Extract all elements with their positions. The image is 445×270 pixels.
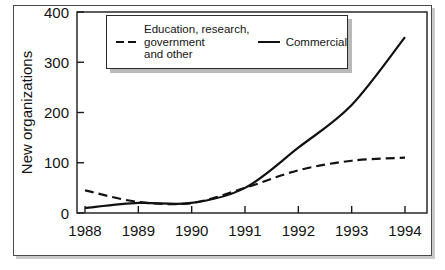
y-axis-tick-label: 100 — [44, 154, 69, 171]
x-axis-tick-label: 1992 — [282, 222, 315, 239]
y-axis-tick-label: 400 — [44, 4, 69, 21]
y-axis-tick-label: 200 — [44, 104, 69, 121]
x-axis-tick-label: 1991 — [228, 222, 261, 239]
figure-container: 0100200300400198819891990199119921993199… — [0, 0, 445, 270]
x-axis-tick-label: 1990 — [175, 222, 208, 239]
legend-label-commercial: Commercial — [286, 36, 347, 49]
legend-item-education[interactable]: Education, research, government and othe… — [107, 23, 256, 61]
chart-legend: Education, research, government and othe… — [106, 15, 348, 69]
dashed-line-swatch — [116, 37, 138, 47]
y-axis-tick-label: 0 — [61, 205, 69, 222]
y-axis-title: New organizations — [18, 51, 35, 174]
x-axis-tick-label: 1988 — [68, 222, 101, 239]
x-axis-tick-label: 1989 — [122, 222, 155, 239]
legend-label-education: Education, research, government and othe… — [144, 23, 249, 61]
x-axis-tick-label: 1994 — [388, 222, 421, 239]
series-line-education — [85, 158, 405, 204]
y-axis-tick-label: 300 — [44, 54, 69, 71]
x-axis-tick-label: 1993 — [335, 222, 368, 239]
legend-item-commercial[interactable]: Commercial — [256, 36, 347, 49]
solid-line-swatch — [258, 37, 280, 47]
